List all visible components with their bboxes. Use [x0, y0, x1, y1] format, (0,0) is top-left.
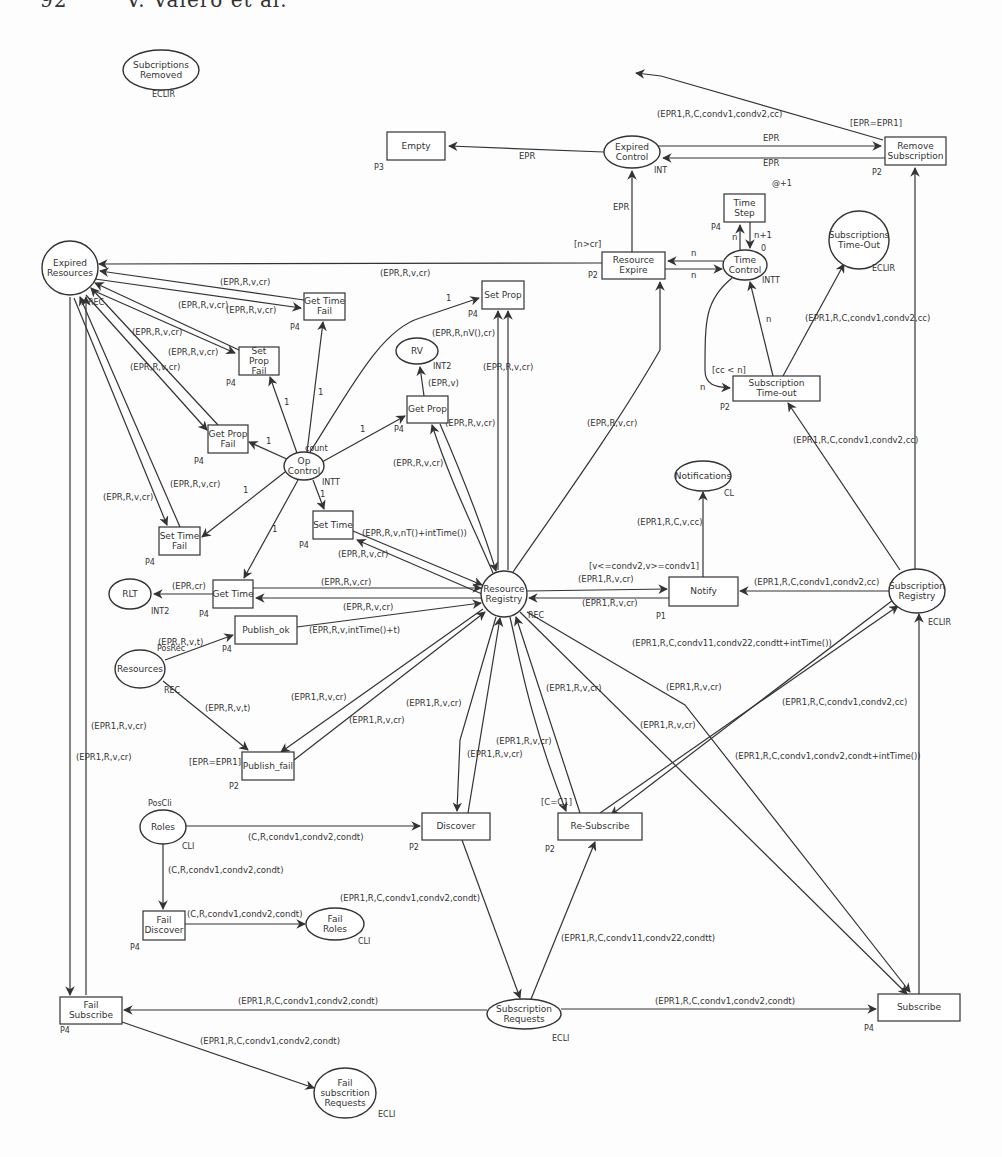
colour-set-label: ECLI — [552, 1034, 569, 1043]
place-label: subscrition — [320, 1088, 369, 1098]
guard-label: [cc < n] — [712, 365, 746, 375]
arc-path — [322, 416, 405, 462]
arc: (EPR1,R,C,condv1,condv2,condt) — [340, 840, 520, 998]
arc-inscription: (EPR1,R,v,cr) — [349, 715, 405, 725]
place-subscription-registry[interactable]: SubscriptionRegistryECLIR — [889, 569, 951, 627]
arc-path — [432, 425, 493, 573]
place-label: Subcriptions — [133, 60, 189, 70]
arc-inscription: (EPR,R,v,cr) — [103, 492, 153, 502]
transition-label: Step — [734, 208, 755, 218]
arc-inscription: (EPR1,R,v,cr) — [467, 749, 523, 759]
place-subscriptions-removed[interactable]: SubcriptionsRemovedECLIR — [123, 50, 199, 99]
arc-path — [270, 377, 297, 453]
arc: (EPR1,R,v,cr) — [496, 617, 580, 813]
arc-inscription: 1 — [243, 485, 248, 495]
arc-inscription: (EPR1,R,C,condv1,condv2,cc) — [793, 435, 918, 445]
place-expired-control[interactable]: ExpiredControlINT — [604, 136, 667, 175]
transition-re-subscribe[interactable]: Re-SubscribeP2 — [545, 813, 642, 854]
arc-inscription: 1 — [272, 524, 277, 534]
transition-notify[interactable]: NotifyP1 — [656, 577, 738, 621]
place-fail-subscription-requests[interactable]: FailsubscritionRequestsECLI — [314, 1068, 395, 1119]
arc-inscription: (EPR1,R,C,v,cc) — [637, 517, 702, 527]
transition-time-step[interactable]: TimeStepP4 — [711, 194, 765, 232]
priority-label: P4 — [711, 223, 721, 232]
arc-inscription: (EPR,R,nV(),cr) — [432, 328, 495, 338]
transition-publish-ok[interactable]: Publish_okP4 — [222, 616, 297, 654]
arc-path — [468, 618, 500, 813]
transition-subscribe[interactable]: SubscribeP4 — [864, 994, 960, 1033]
place-roles[interactable]: RolesCLI — [140, 810, 194, 851]
transition-remove-subscription[interactable]: RemoveSubscriptionP2 — [872, 137, 946, 177]
transition-set-prop[interactable]: Set PropP4 — [468, 281, 524, 319]
arc: (EPR1,R,v,cr) — [510, 617, 602, 811]
place-expired-resources[interactable]: ExpiredResourcesREC — [42, 241, 105, 307]
transition-empty[interactable]: EmptyP3 — [374, 132, 445, 172]
transition-get-time[interactable]: Get TimeP4 — [199, 580, 254, 619]
arc-path — [531, 842, 595, 999]
place-label: Requests — [324, 1098, 366, 1108]
place-label: Subscriptions — [829, 230, 890, 240]
transition-label: Fail — [172, 541, 187, 551]
arc: (EPR,R,v,cr) — [513, 282, 660, 572]
place-subscriptions-timeout[interactable]: SubscriptionsTime-OutECLIR — [829, 211, 896, 273]
transition-label: Publish_fail — [243, 761, 293, 771]
arc: (C,R,condv1,condv2,condt) — [163, 844, 283, 909]
place-resource-registry[interactable]: ResourceRegistryREC — [481, 571, 545, 620]
transition-label: Fail — [157, 915, 172, 925]
place-notifications[interactable]: NotificationsCL — [675, 461, 735, 498]
transition-label: Subscription — [888, 151, 944, 161]
place-resources[interactable]: ResourcesREC — [115, 650, 181, 695]
arc: (EPR,v) — [420, 367, 459, 396]
arc: (EPR1,R,v,cr) — [70, 297, 147, 995]
transition-fail-subscribe[interactable]: FailSubscribeP4 — [60, 997, 122, 1035]
place-rlt[interactable]: RLTINT2 — [109, 579, 169, 616]
arc-inscription: (EPR1,R,C,condv11,condv22,condtt) — [561, 933, 715, 943]
transition-set-time[interactable]: Set TimeP4 — [299, 511, 353, 550]
place-label: Time — [733, 255, 756, 265]
transition-discover[interactable]: DiscoverP2 — [409, 813, 490, 852]
transition-get-prop[interactable]: Get PropP4 — [394, 396, 448, 434]
transition-label: Fail — [252, 366, 267, 376]
place-label: Fail — [338, 1078, 353, 1088]
arc-path — [750, 282, 773, 376]
arc-inscription: (EPR1,R,C,condv1,condv2,cc) — [782, 697, 907, 707]
transition-get-prop-fail[interactable]: Get PropFailP4 — [194, 425, 248, 466]
arc-inscription: n+1 — [754, 230, 772, 240]
place-rv[interactable]: RVINT2 — [396, 338, 451, 371]
colour-set-label: CLI — [358, 937, 370, 946]
transition-set-time-fail[interactable]: Set TimeFailP4 — [145, 527, 200, 567]
annotation-label: @+1 — [772, 179, 792, 188]
place-fail-roles[interactable]: FailRolesCLI — [306, 908, 370, 946]
transition-label: Set — [252, 346, 267, 356]
transition-label: Re-Subscribe — [571, 821, 630, 831]
arc: (EPR,R,v,cr) — [99, 263, 602, 278]
arc-inscription: (EPR,R,v,cr) — [321, 577, 371, 587]
place-label: Control — [729, 265, 762, 275]
arc: (EPR,R,v,cr) — [440, 418, 496, 571]
guard-label: [EPR=EPR1] — [189, 757, 241, 767]
place-label: Registry — [486, 594, 524, 604]
transition-resource-expire[interactable]: ResourceExpireP2 — [588, 252, 665, 280]
arc-inscription: (EPR1,R,v,cr) — [406, 698, 462, 708]
arc: 1 — [270, 377, 297, 453]
colour-set-label: INTT — [762, 276, 780, 285]
transition-label: Fail — [317, 306, 332, 316]
colour-set-label: REC — [88, 298, 105, 307]
arc: (EPR1,R,C,condv1,condv2,condt) — [561, 996, 876, 1009]
place-label: RLT — [122, 589, 138, 599]
arc-path — [788, 403, 900, 570]
transition-label: Remove — [897, 141, 934, 151]
arc-path — [440, 424, 496, 571]
arc: (EPR,R,v,cr) — [95, 283, 239, 350]
priority-label: P4 — [864, 1024, 874, 1033]
transition-subscription-timeout[interactable]: SubscriptionTime-outP2 — [720, 376, 820, 412]
place-label: Resources — [47, 268, 93, 278]
transition-fail-discover[interactable]: FailDiscoverP4 — [130, 911, 185, 952]
arc: (EPR,cr) — [154, 581, 213, 594]
arc: (EPR1,R,v,cr) — [527, 574, 667, 591]
arc-inscription: EPR — [519, 151, 535, 161]
transition-label: Resource — [613, 255, 655, 265]
place-time-control[interactable]: TimeControlINTT — [723, 250, 780, 285]
arc-inscription: (EPR1,R,v,cr) — [582, 598, 638, 608]
place-subscription-requests[interactable]: SubscriptionRequestsECLI — [487, 999, 569, 1043]
